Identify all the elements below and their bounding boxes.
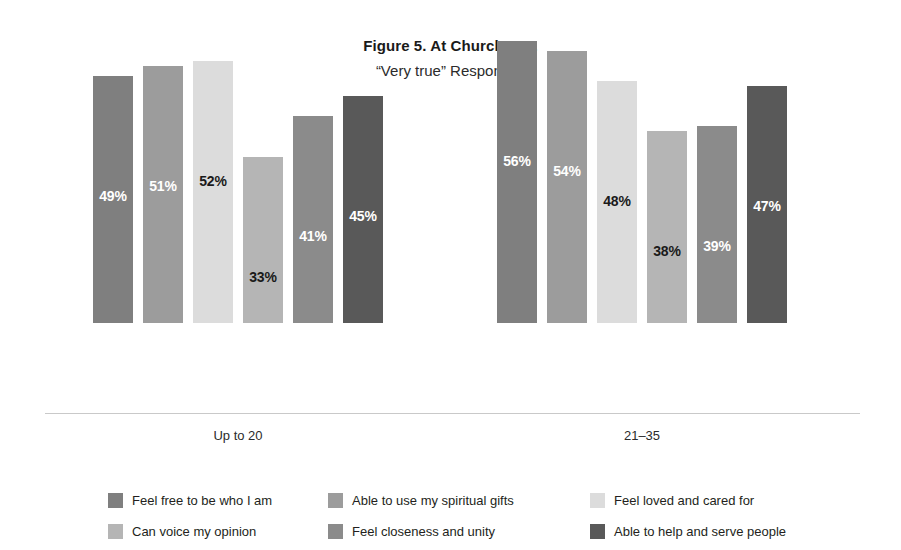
bar: 51% — [143, 66, 183, 323]
legend-label: Can voice my opinion — [132, 524, 256, 539]
legend-swatch-icon — [590, 524, 605, 539]
bar-value-label: 47% — [747, 199, 787, 213]
legend-item: Feel closeness and unity — [328, 524, 495, 539]
bar-value-label: 39% — [697, 239, 737, 253]
bar-value-label: 51% — [143, 179, 183, 193]
bar-value-label: 45% — [343, 209, 383, 223]
x-axis-group-label: Up to 20 — [88, 428, 388, 443]
legend-label: Able to help and serve people — [614, 524, 786, 539]
chart-page: { "chart_data": { "type": "bar", "title"… — [0, 0, 901, 550]
bar-value-label: 48% — [597, 194, 637, 208]
legend-label: Able to use my spiritual gifts — [352, 493, 514, 508]
legend-item: Feel free to be who I am — [108, 493, 272, 508]
bar-value-label: 41% — [293, 229, 333, 243]
bar: 54% — [547, 51, 587, 323]
bar-value-label: 52% — [193, 174, 233, 188]
legend-label: Feel loved and cared for — [614, 493, 754, 508]
legend-label: Feel free to be who I am — [132, 493, 272, 508]
legend-swatch-icon — [108, 493, 123, 508]
legend-item: Able to use my spiritual gifts — [328, 493, 514, 508]
bar-value-label: 49% — [93, 189, 133, 203]
bar-value-label: 33% — [243, 270, 283, 284]
bar: 39% — [697, 126, 737, 323]
bar: 41% — [293, 116, 333, 323]
legend-swatch-icon — [328, 524, 343, 539]
legend: Feel free to be who I amAble to use my s… — [0, 484, 901, 544]
bar: 49% — [93, 76, 133, 323]
bar-value-label: 38% — [647, 244, 687, 258]
legend-swatch-icon — [108, 524, 123, 539]
legend-item: Feel loved and cared for — [590, 493, 754, 508]
x-axis-group-label: 21–35 — [492, 428, 792, 443]
bar: 52% — [193, 61, 233, 323]
legend-swatch-icon — [328, 493, 343, 508]
bar: 47% — [747, 86, 787, 323]
legend-label: Feel closeness and unity — [352, 524, 495, 539]
legend-swatch-icon — [590, 493, 605, 508]
bar: 45% — [343, 96, 383, 323]
legend-item: Able to help and serve people — [590, 524, 786, 539]
bar-value-label: 56% — [497, 154, 537, 168]
legend-item: Can voice my opinion — [108, 524, 256, 539]
bar-value-label: 54% — [547, 164, 587, 178]
bar: 48% — [597, 81, 637, 323]
bar: 38% — [647, 131, 687, 323]
plot-area: 49%51%52%33%41%45%56%54%48%38%39%47% Up … — [0, 0, 901, 460]
bar: 56% — [497, 41, 537, 323]
x-axis-line — [45, 413, 860, 414]
bar: 33% — [243, 157, 283, 323]
